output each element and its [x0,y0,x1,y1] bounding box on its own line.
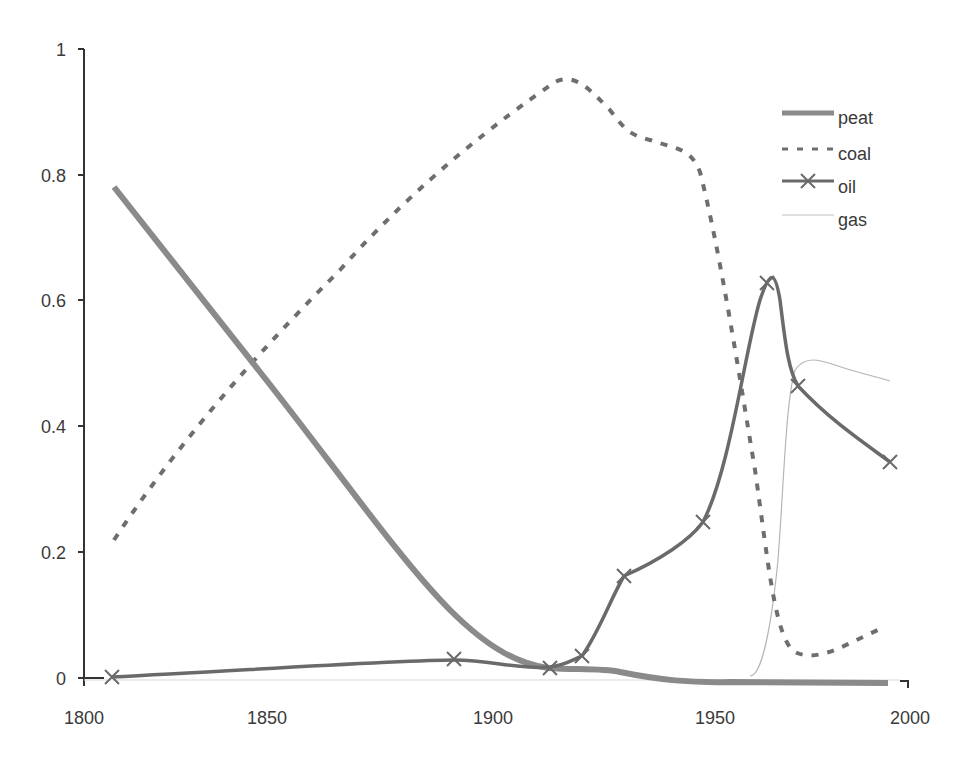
oil-marker-x-icon [696,515,710,529]
oil-markers [105,276,897,684]
series-oil [112,278,890,678]
series-coal [114,79,882,655]
fuel-share-chart: 1 0.8 0.6 0.4 0.2 0 1800 1850 1900 1950 … [0,0,966,774]
legend: peat coal oil gas [782,108,873,230]
x-label-1800: 1800 [64,708,104,728]
y-label-0.8: 0.8 [41,166,66,186]
legend-peat-label: peat [838,108,873,128]
y-axis-ticks [78,49,104,678]
oil-marker-x-icon [883,455,897,469]
oil-marker-x-icon [760,276,774,290]
y-label-1: 1 [56,40,66,60]
x-label-1950: 1950 [695,708,735,728]
y-label-0: 0 [56,669,66,689]
x-label-1900: 1900 [473,708,513,728]
legend-gas-label: gas [838,210,867,230]
x-axis-end-bracket [900,681,908,688]
x-label-2000: 2000 [890,708,930,728]
oil-marker-x-icon [791,379,805,393]
x-label-1850: 1850 [247,708,287,728]
y-label-0.2: 0.2 [41,543,66,563]
oil-marker-x-icon [617,569,631,583]
y-label-0.4: 0.4 [41,417,66,437]
legend-oil-label: oil [838,177,856,197]
y-label-0.6: 0.6 [41,291,66,311]
legend-coal-label: coal [838,144,871,164]
oil-marker-x-icon [575,649,589,663]
y-axis-labels: 1 0.8 0.6 0.4 0.2 0 [41,40,66,689]
x-axis-labels: 1800 1850 1900 1950 2000 [64,708,930,728]
